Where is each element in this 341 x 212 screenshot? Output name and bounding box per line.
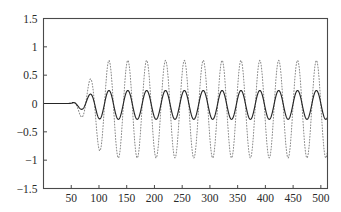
x-tick-label: 100: [90, 192, 108, 204]
x-tick-label: 500: [312, 192, 330, 204]
x-tick-label: 200: [146, 192, 164, 204]
y-tick-label: −0.5: [17, 126, 38, 138]
y-tick-label: 0: [32, 98, 38, 110]
x-tick-label: 300: [201, 192, 219, 204]
y-tick-label: 1: [32, 41, 38, 53]
chart-figure: −1.5−1−0.500.511.5 501001502002503003504…: [0, 0, 341, 212]
y-tick-label: 0.5: [23, 69, 38, 81]
y-tick-label: −1: [25, 154, 37, 166]
x-tick-label: 250: [174, 192, 192, 204]
y-tick-label: −1.5: [17, 183, 38, 195]
y-tick-label: 1.5: [23, 13, 38, 25]
x-tick-label: 150: [118, 192, 136, 204]
oscillation-line-chart: −1.5−1−0.500.511.5 501001502002503003504…: [0, 0, 341, 212]
x-tick-label: 400: [257, 192, 275, 204]
x-tick-label: 350: [229, 192, 247, 204]
x-tick-label: 450: [284, 192, 302, 204]
x-tick-label: 50: [65, 192, 77, 204]
